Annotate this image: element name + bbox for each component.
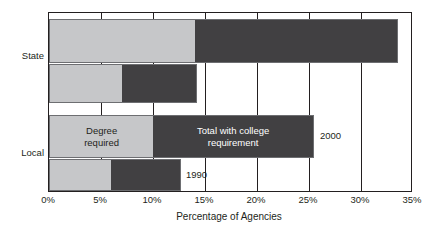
total-with-college-requirement-label: Total with college requirement <box>197 125 269 148</box>
bar-state-2000[interactable] <box>49 19 398 63</box>
category-axis: State Local <box>0 0 44 192</box>
bar-local-1990-year-annotation: 1990 <box>186 169 207 180</box>
x-tick-30: 30% <box>350 194 369 206</box>
bar-local-2000[interactable]: Degree required Total with college requi… <box>49 115 314 158</box>
bar-local-1990-total-college-segment <box>111 160 180 190</box>
bar-local-2000-total-college-segment: Total with college requirement <box>153 116 313 157</box>
x-tick-10: 10% <box>142 194 161 206</box>
x-tick-20: 20% <box>246 194 265 206</box>
x-tick-5: 5% <box>93 194 107 206</box>
x-tick-25: 25% <box>298 194 317 206</box>
x-axis-title-text: Percentage of Agencies <box>176 211 282 222</box>
bar-local-2000-degree-required-segment: Degree required <box>50 116 153 157</box>
bar-local-2000-year-annotation: 2000 <box>320 130 341 141</box>
x-axis-tick-labels: 0% 5% 10% 15% 20% 25% 30% 35% <box>0 194 436 210</box>
plot-area: Degree required Total with college requi… <box>48 12 412 192</box>
bar-state-1990-degree-required-segment <box>50 65 122 102</box>
category-label-local: Local <box>0 147 44 158</box>
bar-local-1990[interactable] <box>49 159 181 191</box>
bar-local-1990-degree-required-segment <box>50 160 111 190</box>
bar-state-1990[interactable] <box>49 64 197 103</box>
horizontal-bar-chart: State Local Degree required Total with c… <box>0 0 436 235</box>
x-tick-0: 0% <box>41 194 55 206</box>
x-tick-35: 35% <box>402 194 421 206</box>
bar-state-1990-total-college-segment <box>122 65 196 102</box>
x-axis-title: Percentage of Agencies <box>0 211 436 222</box>
bar-state-2000-degree-required-segment <box>50 20 195 62</box>
x-tick-15: 15% <box>194 194 213 206</box>
bar-state-2000-total-college-segment <box>195 20 397 62</box>
degree-required-label: Degree required <box>84 125 119 148</box>
category-label-state: State <box>0 50 44 61</box>
